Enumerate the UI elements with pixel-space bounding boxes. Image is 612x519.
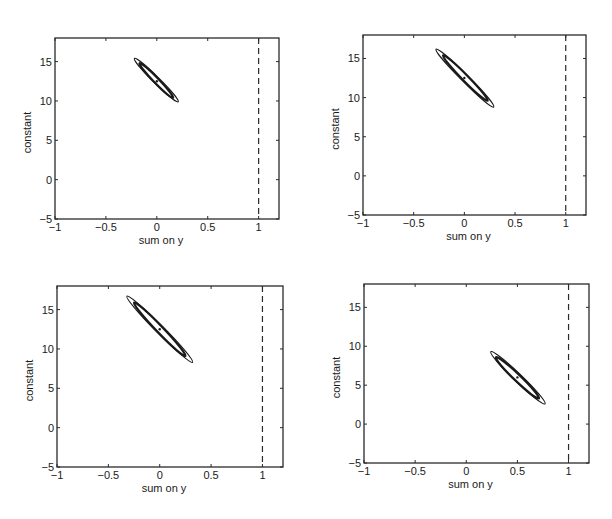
y-tick-label: 10	[348, 92, 360, 104]
figure-2x2-grid: −1−0.500.51−5051015sum on yconstant−1−0.…	[0, 0, 612, 519]
y-axis-label: constant	[330, 357, 342, 399]
x-tick-label: −0.5	[95, 221, 117, 233]
plot-panel-top-left: −1−0.500.51−5051015sum on yconstant	[21, 38, 279, 246]
y-axis-label: constant	[21, 112, 33, 154]
y-tick-label: 10	[42, 343, 54, 355]
plot-panel-bottom-right: −1−0.500.51−5051015sum on yconstant	[330, 284, 589, 490]
x-tick-label: 1	[256, 221, 262, 233]
y-tick-label: 15	[349, 301, 361, 313]
y-tick-label: 10	[349, 340, 361, 352]
y-tick-label: −5	[39, 213, 52, 225]
x-tick-label: −0.5	[98, 469, 120, 481]
y-tick-label: 15	[40, 56, 52, 68]
y-tick-label: 0	[48, 422, 54, 434]
x-tick-label: 1	[259, 469, 265, 481]
y-tick-label: 0	[355, 418, 361, 430]
y-tick-label: −5	[348, 457, 361, 469]
x-tick-label: 0.5	[203, 469, 218, 481]
x-tick-label: 0	[461, 217, 467, 229]
plot-panel-bottom-left: −1−0.500.51−5051015sum on yconstant	[23, 286, 283, 494]
x-axis-label: sum on y	[139, 234, 184, 246]
y-axis-label: constant	[329, 108, 341, 150]
y-tick-label: −5	[41, 461, 54, 473]
y-tick-label: 5	[46, 134, 52, 146]
axes-frame	[364, 284, 589, 463]
y-tick-label: 10	[40, 95, 52, 107]
x-tick-label: 0.5	[510, 465, 525, 477]
x-axis-label: sum on y	[446, 230, 491, 242]
x-tick-label: −0.5	[403, 217, 425, 229]
axes-frame	[57, 286, 283, 467]
x-tick-label: 1	[563, 217, 569, 229]
plot-panel-top-right: −1−0.500.51−5051015sum on yconstant	[329, 35, 586, 242]
y-tick-label: 0	[354, 170, 360, 182]
y-tick-label: −5	[347, 209, 360, 221]
x-tick-label: 1	[565, 465, 571, 477]
center-point	[159, 328, 161, 330]
y-tick-label: 0	[46, 174, 52, 186]
y-tick-label: 15	[42, 304, 54, 316]
x-tick-label: 0	[463, 465, 469, 477]
center-point	[516, 376, 518, 378]
figure-canvas: −1−0.500.51−5051015sum on yconstant−1−0.…	[0, 0, 612, 519]
center-point	[463, 77, 465, 79]
center-point	[156, 80, 158, 82]
axes-frame	[55, 38, 279, 219]
y-tick-label: 15	[348, 52, 360, 64]
y-tick-label: 5	[354, 131, 360, 143]
x-tick-label: 0.5	[507, 217, 522, 229]
y-axis-label: constant	[23, 360, 35, 402]
x-axis-label: sum on y	[142, 482, 187, 494]
x-axis-label: sum on y	[448, 478, 493, 490]
x-tick-label: 0	[157, 469, 163, 481]
x-tick-label: 0.5	[200, 221, 215, 233]
y-tick-label: 5	[48, 382, 54, 394]
x-tick-label: 0	[154, 221, 160, 233]
y-tick-label: 5	[355, 379, 361, 391]
x-tick-label: −0.5	[404, 465, 426, 477]
axes-frame	[363, 35, 586, 215]
